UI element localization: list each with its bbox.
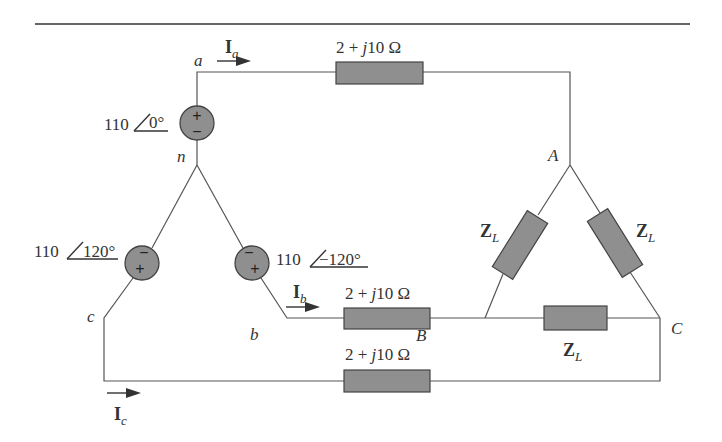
plus-sign: + xyxy=(135,260,144,277)
current-label-b: Ib xyxy=(293,282,307,306)
node-label-A: A xyxy=(547,146,559,165)
arrowhead-icon xyxy=(126,388,141,398)
arrowhead-icon xyxy=(305,302,320,312)
wire-zab-to-B xyxy=(485,274,503,318)
source-c-label: 110 120° xyxy=(34,242,118,261)
svg-text:110: 110 xyxy=(276,250,301,269)
wire-n-to-vb xyxy=(197,165,243,248)
circuit-diagram: + − − + − + 110 0° 110 120° 110 −120° 2 … xyxy=(0,0,722,442)
svg-text:110: 110 xyxy=(34,242,59,261)
plus-sign: + xyxy=(250,260,259,277)
svg-text:0°: 0° xyxy=(149,113,164,132)
node-label-n: n xyxy=(177,147,186,166)
node-label-C: C xyxy=(671,319,683,338)
voltage-source-c: − + xyxy=(125,244,159,280)
voltage-source-b: − + xyxy=(235,244,269,280)
line-impedance-c-label: 2 + j10 Ω xyxy=(345,345,410,364)
svg-text:120°: 120° xyxy=(83,242,115,261)
source-b-label: 110 −120° xyxy=(276,250,368,269)
load-impedance-bc xyxy=(544,306,607,330)
load-impedance-ca xyxy=(587,209,642,278)
current-label-a: Ia xyxy=(225,37,239,61)
line-impedance-c xyxy=(344,370,430,392)
current-arrow-a: Ia xyxy=(217,37,251,66)
wire-a-left xyxy=(197,72,336,106)
current-arrow-c: Ic xyxy=(107,388,141,428)
current-label-c: Ic xyxy=(114,404,127,428)
minus-sign: − xyxy=(139,244,148,261)
voltage-source-a: + − xyxy=(180,106,214,140)
line-impedance-a-label: 2 + j10 Ω xyxy=(336,38,401,57)
wire-A-to-zab xyxy=(538,165,570,215)
wire-zca-to-C xyxy=(630,272,660,318)
svg-text:−120°: −120° xyxy=(319,250,361,269)
current-arrow-b: Ib xyxy=(286,282,320,312)
load-impedance-ab-label: ZL xyxy=(480,221,499,245)
load-impedance-bc-label: ZL xyxy=(563,340,582,364)
line-impedance-b-label: 2 + j10 Ω xyxy=(345,284,410,303)
angle-symbol xyxy=(134,114,150,131)
node-label-a: a xyxy=(194,51,203,70)
wire-A-to-zca xyxy=(570,165,600,213)
plus-sign: + xyxy=(192,107,201,124)
angle-symbol xyxy=(67,242,83,259)
load-impedance-ab xyxy=(492,211,547,280)
load-impedance-ca-label: ZL xyxy=(636,221,655,245)
node-label-b: b xyxy=(250,325,259,344)
minus-sign: − xyxy=(192,123,201,140)
source-a-label: 110 0° xyxy=(104,113,168,134)
svg-text:110: 110 xyxy=(104,115,129,134)
line-impedance-a xyxy=(336,62,423,84)
minus-sign: − xyxy=(244,244,253,261)
node-label-B: B xyxy=(416,326,427,345)
wire-n-to-vc xyxy=(152,165,197,248)
wire-vc-to-c-bottom xyxy=(104,278,344,381)
node-label-c: c xyxy=(87,307,95,326)
